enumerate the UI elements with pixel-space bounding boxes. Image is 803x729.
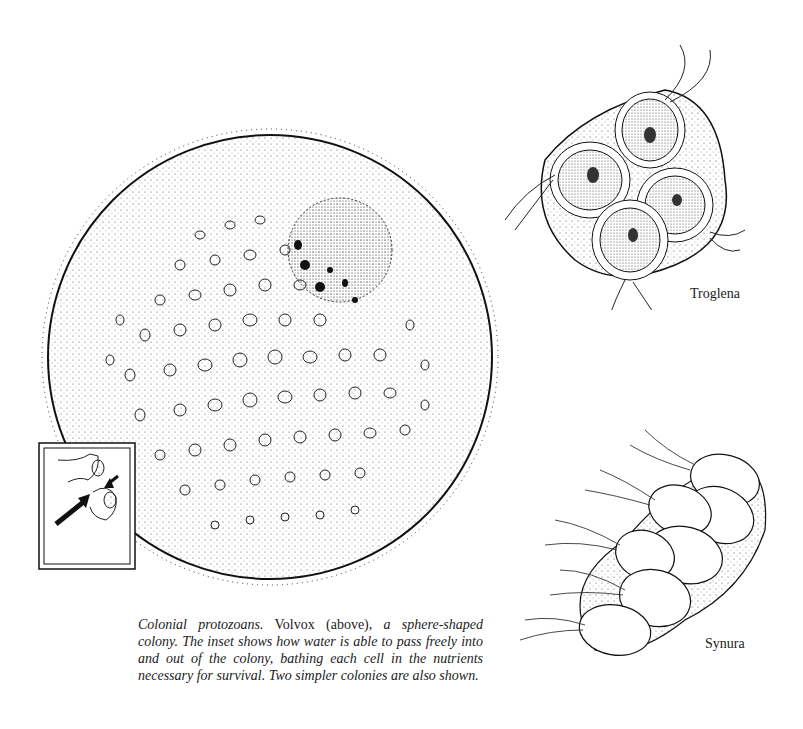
troglena-illustration: Troglena xyxy=(505,40,745,310)
volvox-inset-box xyxy=(38,442,136,570)
caption-text-1: Volvox (above), xyxy=(264,617,384,632)
synura-label: Synura xyxy=(705,636,745,652)
synura-illustration: Synura xyxy=(505,420,785,680)
caption-title: Colonial protozoans. xyxy=(138,617,264,632)
troglena-label: Troglena xyxy=(690,286,740,302)
figure-caption: Colonial protozoans. Volvox (above), a s… xyxy=(138,616,483,684)
